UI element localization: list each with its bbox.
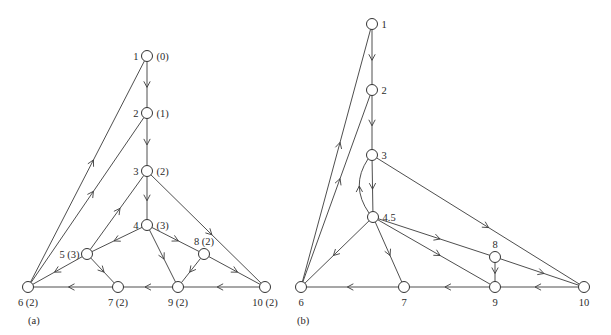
node-8: 8 (2) — [194, 236, 215, 260]
node-2: 2 — [367, 85, 387, 96]
node-circle-icon — [142, 166, 153, 177]
edge-4-to-5 — [92, 227, 142, 251]
node-4: 4(3) — [133, 220, 169, 232]
node-label: (0) — [157, 51, 170, 63]
node-label: 9 — [492, 297, 497, 308]
node-circle-icon — [260, 282, 271, 293]
edge-9-to-7 — [124, 284, 173, 290]
node-circle-icon — [367, 85, 378, 96]
edge-9-to-7 — [410, 284, 490, 290]
edge-7-to-6 — [307, 284, 399, 290]
edge-3-to-4.5 — [369, 160, 375, 211]
node-label: 4 — [133, 220, 139, 231]
node-circle-icon — [490, 252, 501, 263]
node-label: 10 (2) — [252, 297, 278, 309]
arrowhead-icon — [482, 222, 489, 228]
edge-4-to-8 — [152, 227, 199, 251]
node-7: 7 (2) — [108, 282, 129, 309]
node-label: 5 (3) — [59, 249, 80, 261]
node-label: 1 — [133, 51, 138, 62]
edge-8-to-10 — [500, 259, 579, 285]
panel-b-nodes: 1234.5867910 — [296, 19, 590, 308]
node-2: 2(1) — [133, 108, 169, 120]
edge-3-to-10 — [377, 158, 580, 284]
edge-2-to-3 — [144, 119, 150, 166]
node-label: 8 (2) — [194, 236, 215, 248]
node-label: 9 (2) — [168, 297, 189, 309]
node-label: 8 — [492, 239, 497, 250]
node-label: 6 — [298, 297, 303, 308]
node-9: 9 (2) — [168, 282, 189, 309]
node-label: 2 — [382, 85, 387, 96]
node-8: 8 — [490, 239, 501, 263]
node-circle-icon — [142, 220, 153, 231]
node-label: 3 — [133, 166, 138, 177]
edge-4.5-to-9 — [378, 220, 490, 285]
node-label: 3 — [382, 150, 387, 161]
node-label: (3) — [157, 220, 170, 232]
node-circle-icon — [490, 282, 501, 293]
node-9: 9 — [490, 282, 501, 308]
panel-b-caption: (b) — [297, 315, 310, 327]
graph-figure: 1(0)2(1)3(2)4(3)5 (3)8 (2)6 (2)7 (2)9 (2… — [0, 0, 611, 335]
edge-7-to-6 — [34, 284, 113, 290]
node-circle-icon — [367, 150, 378, 161]
node-label: 7 — [401, 297, 406, 308]
node-circle-icon — [399, 282, 410, 293]
edge-10-to-9 — [501, 284, 579, 290]
edge-6-to-1 — [302, 29, 370, 281]
edge-5-to-3 — [90, 175, 144, 249]
edge-6-to-2 — [303, 95, 370, 282]
edge-4.5-to-6 — [305, 221, 369, 283]
node-label: 7 (2) — [108, 297, 129, 309]
edge-3-to-4 — [144, 177, 150, 220]
edge-8-to-9 — [181, 258, 200, 282]
edge-8-to-9 — [492, 263, 498, 282]
edge-2-to-3 — [369, 96, 375, 150]
node-1: 1 — [367, 19, 387, 30]
node-circle-icon — [82, 249, 93, 260]
node-circle-icon — [142, 51, 153, 62]
node-circle-icon — [113, 282, 124, 293]
node-3: 3 — [367, 150, 387, 161]
node-label: (2) — [157, 166, 170, 178]
edge-5-to-7 — [91, 258, 114, 283]
node-6: 6 (2) — [18, 282, 39, 309]
node-circle-icon — [142, 108, 153, 119]
panel-b-graph: 1234.5867910 (b) — [296, 19, 590, 328]
node-circle-icon — [368, 212, 379, 223]
panel-a-graph: 1(0)2(1)3(2)4(3)5 (3)8 (2)6 (2)7 (2)9 (2… — [18, 51, 278, 328]
edge-4.5-to-3 — [356, 159, 369, 213]
edge-1-to-2 — [369, 30, 375, 85]
node-6: 6 — [296, 282, 307, 308]
node-label: (1) — [157, 108, 170, 120]
edge-5-to-6 — [33, 257, 82, 285]
node-7: 7 — [399, 282, 410, 308]
node-label: 4.5 — [383, 212, 396, 223]
node-circle-icon — [296, 282, 307, 293]
panel-a-caption: (a) — [28, 315, 40, 327]
node-circle-icon — [173, 282, 184, 293]
edge-10-to-9 — [184, 284, 260, 290]
node-label: 6 (2) — [18, 297, 39, 309]
edge-1-to-2 — [144, 62, 150, 108]
node-label: 2 — [133, 108, 138, 119]
node-10: 10 — [579, 282, 590, 308]
node-10: 10 (2) — [252, 282, 278, 309]
node-5: 5 (3) — [59, 249, 92, 261]
node-circle-icon — [367, 19, 378, 30]
node-label: 10 — [579, 297, 590, 308]
edge-8-to-10 — [209, 257, 260, 285]
panel-a-nodes: 1(0)2(1)3(2)4(3)5 (3)8 (2)6 (2)7 (2)9 (2… — [18, 51, 278, 309]
node-circle-icon — [23, 282, 34, 293]
edge-4.5-to-8 — [378, 219, 490, 256]
node-circle-icon — [199, 249, 210, 260]
node-label: 1 — [382, 19, 387, 30]
node-1: 1(0) — [133, 51, 169, 63]
node-4.5: 4.5 — [368, 212, 396, 223]
node-circle-icon — [579, 282, 590, 293]
panel-b-edges — [302, 29, 579, 290]
